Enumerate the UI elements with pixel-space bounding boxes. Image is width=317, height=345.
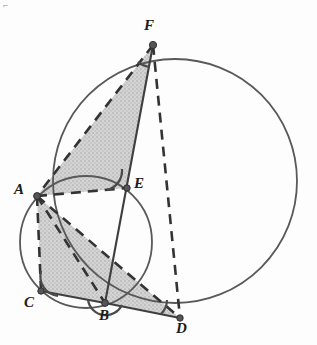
geometry-figure: ⌐ xyxy=(0,0,317,345)
point-B xyxy=(102,300,109,307)
label-A: A xyxy=(14,182,24,197)
label-D: D xyxy=(176,321,187,336)
point-C xyxy=(38,288,44,294)
point-F xyxy=(149,41,156,48)
label-B: B xyxy=(99,308,109,323)
label-E: E xyxy=(134,176,144,191)
label-C: C xyxy=(24,295,34,310)
segment-FD xyxy=(153,45,180,318)
geometry-canvas xyxy=(0,0,317,345)
point-A xyxy=(34,193,41,200)
label-F: F xyxy=(144,18,154,33)
point-E xyxy=(124,185,130,191)
